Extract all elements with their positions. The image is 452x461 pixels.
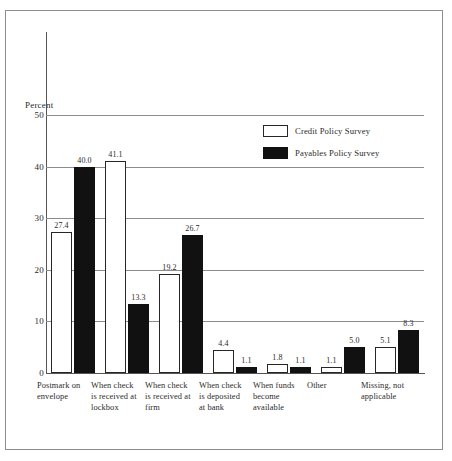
bar-value-payables-0: 40.0 — [70, 156, 99, 165]
bar-value-credit-5: 1.1 — [317, 356, 346, 365]
y-tick-label-30: 30 — [18, 213, 44, 223]
bar-credit-5 — [321, 367, 342, 373]
bar-payables-4 — [290, 367, 311, 373]
bar-payables-1 — [128, 304, 149, 373]
bar-value-payables-4: 1.1 — [286, 356, 315, 365]
legend-item-0: Credit Policy Survey — [263, 122, 379, 139]
category-label-line: Missing, not — [361, 380, 429, 391]
legend-label-1: Payables Policy Survey — [295, 148, 379, 158]
bar-value-payables-5: 5.0 — [340, 336, 369, 345]
bar-credit-6 — [375, 347, 396, 373]
bar-value-payables-3: 1.1 — [232, 356, 261, 365]
x-axis-line — [46, 373, 425, 374]
category-label-6: Missing, notapplicable — [361, 380, 429, 402]
gridline-30 — [46, 218, 424, 219]
chart-title: EXHIBIT 5 RECEIVED PAYMENT DATE — [0, 0, 452, 3]
bar-payables-6 — [398, 330, 419, 373]
bar-value-payables-6: 8.3 — [394, 319, 423, 328]
gridline-20 — [46, 270, 424, 271]
gridline-10 — [46, 321, 424, 322]
chart-legend: Credit Policy SurveyPayables Policy Surv… — [263, 122, 379, 166]
y-tick-label-10: 10 — [18, 316, 44, 326]
bar-credit-1 — [105, 161, 126, 373]
category-label-line: applicable — [361, 391, 429, 402]
bar-credit-2 — [159, 274, 180, 373]
bar-credit-4 — [267, 364, 288, 373]
category-label-line: available — [253, 402, 321, 413]
bar-value-credit-0: 27.4 — [47, 221, 76, 230]
legend-label-0: Credit Policy Survey — [295, 126, 370, 136]
gridline-40 — [46, 167, 424, 168]
legend-item-1: Payables Policy Survey — [263, 144, 379, 161]
bar-payables-3 — [236, 367, 257, 373]
y-tick-label-0: 0 — [18, 368, 44, 378]
y-tick-label-20: 20 — [18, 265, 44, 275]
category-label-line: become — [253, 391, 321, 402]
bar-value-credit-1: 41.1 — [101, 150, 130, 159]
legend-swatch-black — [263, 147, 288, 159]
legend-swatch-white — [263, 125, 288, 137]
bar-value-credit-2: 19.2 — [155, 263, 184, 272]
bar-value-credit-3: 4.4 — [209, 339, 238, 348]
y-axis-title: Percent — [25, 100, 53, 110]
y-tick-label-50: 50 — [18, 110, 44, 120]
bar-payables-2 — [182, 235, 203, 373]
bar-value-payables-2: 26.7 — [178, 224, 207, 233]
bar-credit-3 — [213, 350, 234, 373]
bar-credit-0 — [51, 232, 72, 373]
bar-payables-0 — [74, 167, 95, 373]
bar-value-payables-1: 13.3 — [124, 293, 153, 302]
bar-value-credit-6: 5.1 — [371, 336, 400, 345]
y-tick-label-40: 40 — [18, 162, 44, 172]
gridline-50 — [46, 115, 424, 116]
bar-payables-5 — [344, 347, 365, 373]
